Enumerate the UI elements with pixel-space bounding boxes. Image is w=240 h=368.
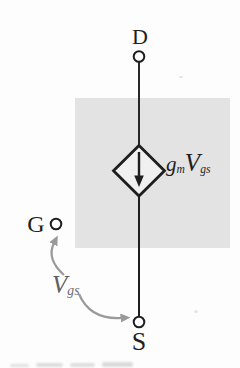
- source-terminal-node: [134, 317, 145, 328]
- vgs-symbol-subscript: gs: [200, 163, 210, 175]
- drain-terminal-label: D: [132, 26, 148, 48]
- print-speck: [179, 76, 183, 78]
- vgs-annotation-subscript: gs: [67, 283, 79, 298]
- diagram-canvas: [0, 0, 240, 368]
- vgs-symbol: V: [185, 149, 200, 176]
- print-speck: [194, 310, 198, 313]
- caption-fragment-smudge: [70, 363, 95, 367]
- vgs-annotation-label: Vgs: [52, 272, 80, 297]
- caption-fragment-smudge: [36, 363, 63, 367]
- vgs-annotation-symbol: V: [52, 271, 67, 298]
- source-terminal-label: S: [132, 329, 146, 355]
- caption-fragment-smudge: [102, 362, 133, 367]
- gate-terminal-node: [51, 219, 62, 230]
- drain-terminal-node: [134, 51, 145, 62]
- gate-terminal-label: G: [27, 212, 44, 236]
- circuit-diagram: D G S gmVgs Vgs: [0, 0, 240, 368]
- gm-symbol: g: [166, 152, 177, 176]
- gm-subscript: m: [177, 163, 185, 175]
- vgs-to-source-arrow: [79, 294, 122, 318]
- current-source-value-label: gmVgs: [166, 150, 210, 175]
- caption-fragment-smudge: [10, 364, 29, 367]
